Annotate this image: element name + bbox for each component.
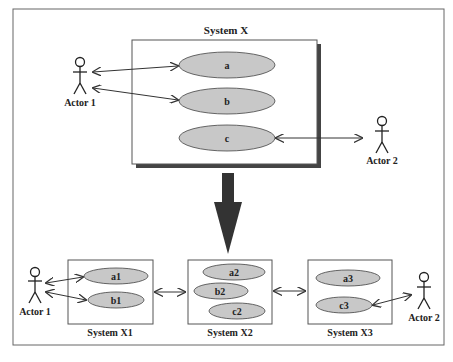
usecase-a3-label: a3 xyxy=(343,273,353,284)
system-x2-title: System X2 xyxy=(207,327,252,338)
usecase-b-label: b xyxy=(224,96,230,107)
usecase-a1-label: a1 xyxy=(111,271,121,282)
usecase-a2-label: a2 xyxy=(229,267,239,278)
system-x1-title: System X1 xyxy=(87,327,132,338)
actor-2-top[interactable] xyxy=(375,117,389,154)
actor-2-bottom-label: Actor 2 xyxy=(408,312,440,323)
system-x3-title: System X3 xyxy=(327,327,372,338)
system-x-title: System X xyxy=(204,24,248,36)
actor-icon xyxy=(31,268,40,277)
system-x3-box xyxy=(308,260,392,324)
usecase-a-label: a xyxy=(225,60,230,71)
usecase-c2-label: c2 xyxy=(232,306,241,317)
system-x3: System X3 a3 c3 xyxy=(308,260,392,338)
system-x: System X a b c xyxy=(132,24,321,168)
actor-icon xyxy=(378,117,387,126)
actor-1-top-label: Actor 1 xyxy=(64,97,96,108)
decomposition-arrow-icon xyxy=(214,173,242,254)
use-case-decomposition-diagram: System X a b c Actor 1 Actor 2 xyxy=(0,0,453,362)
system-x2: System X2 a2 b2 c2 xyxy=(188,260,272,338)
usecase-c3-label: c3 xyxy=(339,300,348,311)
usecase-c-label: c xyxy=(225,133,230,144)
usecase-b2-label: b2 xyxy=(215,286,226,297)
actor-2-bottom[interactable] xyxy=(417,273,431,310)
actor-icon xyxy=(76,58,85,67)
actor-1-top[interactable] xyxy=(73,58,87,95)
usecase-b1-label: b1 xyxy=(111,295,122,306)
actor-1-bottom[interactable] xyxy=(28,268,42,304)
actor-2-top-label: Actor 2 xyxy=(366,155,398,166)
actor-icon xyxy=(420,273,429,282)
actor-1-bottom-label: Actor 1 xyxy=(19,306,51,317)
